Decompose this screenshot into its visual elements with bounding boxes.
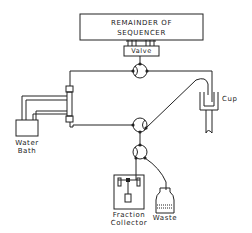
cup-label: Cup: [222, 95, 238, 103]
water-bath: [16, 120, 38, 136]
water-bath-label-line1: Water: [10, 139, 44, 147]
sequencer-label-line1: REMAINDER OF: [80, 19, 203, 27]
cup: [200, 92, 218, 110]
fraction-collector-label-line2: Collector: [108, 219, 150, 227]
water-bath-label-line2: Bath: [10, 147, 44, 155]
waste-bottle: [156, 188, 174, 213]
sequencer-label-line2: SEQUENCER: [80, 29, 203, 37]
waste-label: Waste: [152, 214, 178, 222]
fraction-collector-label-line1: Fraction: [108, 211, 150, 219]
valve-label: Valve: [124, 47, 159, 55]
